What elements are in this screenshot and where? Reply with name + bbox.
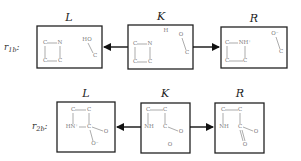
atom: O [168, 141, 173, 147]
atom: C [43, 57, 47, 63]
atom: C [87, 106, 91, 112]
atom: C [148, 58, 152, 64]
rule2-R-graph: R C C NH C O O [215, 87, 264, 153]
atom: C [133, 58, 137, 64]
rule-r1b: r1b: L C N C C HO C K H [4, 10, 287, 69]
rule-r2b: r2b: L C C HN⁺ C O O⁻ K [32, 87, 264, 153]
rule1-L-graph: L C N C C HO C [37, 11, 102, 68]
atom: C [58, 57, 62, 63]
atom: N [58, 39, 63, 45]
atom: C [146, 106, 150, 112]
atom: O⁻ [91, 140, 99, 146]
atom: NH [144, 123, 154, 129]
rule-label-r1b: r1b: [4, 42, 20, 54]
atom: C [225, 57, 229, 63]
rule2-R-title: R [235, 87, 244, 100]
atom: C [238, 106, 242, 112]
atom: HO [82, 36, 92, 42]
atom: NH⁺ [239, 39, 252, 45]
atom: C [185, 49, 189, 55]
rewrite-rules-diagram: r1b: L C N C C HO C K H [0, 0, 301, 161]
rule2-K-title: K [160, 87, 170, 100]
rule2-L-title: L [81, 87, 89, 100]
atom: C [71, 106, 75, 112]
atom: O [179, 31, 184, 37]
atom: O [179, 128, 184, 134]
atom: C [93, 52, 97, 58]
rule1-K-graph: K H C N C C O C [128, 10, 193, 69]
atom: H [164, 27, 169, 33]
atom: NH [219, 123, 229, 129]
rule1-L-title: L [64, 11, 72, 24]
rule-label-r2b: r2b: [32, 121, 48, 133]
atom: C [87, 123, 91, 129]
atom: C [243, 57, 247, 63]
atom: C [238, 123, 242, 129]
rule2-L-graph: L C C HN⁺ C O O⁻ [57, 87, 115, 152]
atom: C [163, 123, 167, 129]
atom: C [43, 39, 47, 45]
atom: HN⁺ [66, 123, 79, 129]
atom: O [254, 128, 259, 134]
atom: O⁻ [271, 30, 279, 36]
rule1-R-title: R [249, 12, 258, 25]
rule1-K-title: K [156, 10, 166, 23]
atom: C [279, 48, 283, 54]
rule1-R-graph: R C NH⁺ C C O⁻ C [221, 12, 287, 68]
rule2-K-graph: K C C NH C O O [141, 87, 190, 153]
atom: C [163, 106, 167, 112]
atom: N [148, 40, 153, 46]
atom: C [225, 39, 229, 45]
atom: C [221, 106, 225, 112]
atom: O [104, 128, 109, 134]
atom: O [243, 141, 248, 147]
atom: C [133, 40, 137, 46]
